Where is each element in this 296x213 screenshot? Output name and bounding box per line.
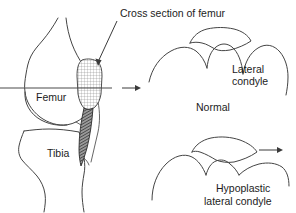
medial-condyle-dome-hypoplastic	[152, 155, 206, 200]
patella-fragment-normal	[190, 28, 251, 51]
label-lateral-condyle-line1: Lateral	[232, 63, 264, 75]
medial-condyle-dome-normal	[149, 47, 207, 82]
tibial-plateau	[24, 129, 81, 137]
label-cross-section-of-femur: Cross section of femur	[120, 7, 226, 19]
label-normal: Normal	[196, 101, 230, 113]
lateral-knee-view: Femur Tibia	[0, 18, 112, 212]
figure-canvas: Femur Tibia Cross section of femur	[0, 0, 296, 213]
cross-section-dark-strip	[79, 108, 93, 166]
femur-anterior-contour	[25, 18, 67, 125]
title-pointer-line	[98, 21, 117, 62]
transfer-arrow-head	[135, 85, 141, 91]
hypoplastic-condyle-cross-section: Hypoplastic lateral condyle	[152, 137, 289, 207]
label-hypoplastic-line1: Hypoplastic	[216, 182, 270, 194]
progression-arrow	[259, 147, 283, 153]
normal-condyle-cross-section: Lateral condyle Normal	[149, 28, 288, 114]
anatomy-figure: Femur Tibia Cross section of femur	[0, 0, 296, 213]
label-lateral-condyle-line2: condyle	[232, 75, 268, 87]
label-femur: Femur	[36, 91, 67, 103]
title-annotation: Cross section of femur	[95, 7, 225, 66]
patella-fragment-hypoplastic	[192, 137, 257, 162]
transfer-arrow	[122, 85, 141, 91]
label-hypoplastic-line2: lateral condyle	[204, 195, 272, 207]
label-tibia: Tibia	[47, 147, 70, 159]
tibia-anterior-contour	[19, 131, 46, 212]
cross-section-hatched-block	[77, 59, 102, 109]
progression-arrow-head	[277, 147, 283, 153]
